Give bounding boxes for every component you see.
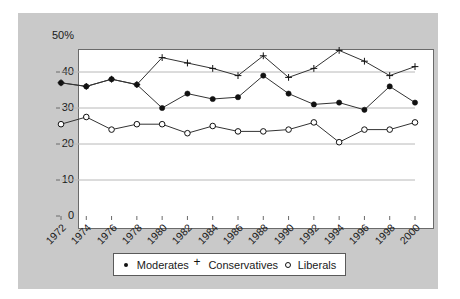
legend-entry: Conservatives: [194, 259, 278, 271]
filled-circle-icon: [123, 260, 132, 269]
x-tick-label: 1972: [44, 222, 68, 246]
legend-label: Liberals: [298, 259, 337, 271]
plus-icon: [194, 260, 203, 269]
open-circle-icon: [284, 260, 293, 269]
x-tick-label: 1996: [347, 222, 371, 246]
x-tick-label: 1984: [196, 222, 220, 246]
chart-figure: 50%403020100 197219741976197819801982198…: [0, 0, 460, 299]
x-tick-label: 1994: [322, 222, 346, 246]
x-tick-label: 1988: [246, 222, 270, 246]
legend-label: Moderates: [137, 259, 189, 271]
legend-label: Conservatives: [208, 259, 278, 271]
chart-panel: 50%403020100 197219741976197819801982198…: [18, 13, 438, 289]
x-tick-label: 2000: [398, 222, 422, 246]
legend-entry: Liberals: [284, 259, 337, 271]
chart-legend: ModeratesConservativesLiberals: [113, 253, 346, 276]
x-tick-label: 1976: [94, 222, 118, 246]
x-tick-label: 1998: [373, 222, 397, 246]
legend-entry: Moderates: [123, 259, 189, 271]
x-tick-label: 1978: [120, 222, 144, 246]
x-tick-label: 1974: [69, 222, 93, 246]
x-axis-ticks: 1972197419761978198019821984198619881990…: [18, 13, 438, 289]
x-tick-label: 1986: [221, 222, 245, 246]
x-tick-label: 1990: [271, 222, 295, 246]
x-tick-label: 1992: [297, 222, 321, 246]
x-tick-label: 1982: [170, 222, 194, 246]
x-tick-label: 1980: [145, 222, 169, 246]
